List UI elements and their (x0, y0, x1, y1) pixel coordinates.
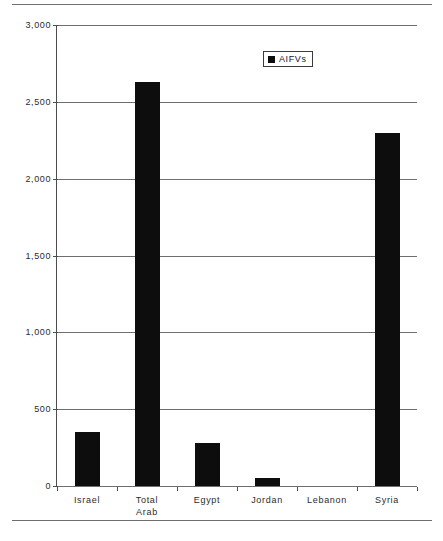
x-tick-mark (237, 487, 238, 491)
legend-swatch-square-icon (268, 56, 275, 63)
bar (135, 82, 160, 486)
x-axis-category-label-line: Arab (109, 506, 185, 518)
y-tick-label: 1,000 (25, 327, 51, 337)
bar (75, 432, 100, 486)
x-axis-category-label-line: Israel (74, 495, 100, 505)
page-rule-bottom (12, 520, 432, 521)
x-axis-category-label-line: Jordan (251, 495, 283, 505)
y-tick-label: 0 (45, 481, 51, 491)
x-tick-mark (177, 487, 178, 491)
x-axis-category-label-line: Syria (375, 495, 399, 505)
x-tick-mark (117, 487, 118, 491)
x-axis-category-label: Syria (349, 494, 425, 506)
x-tick-mark (57, 487, 58, 491)
legend-label: AIFVs (279, 54, 307, 64)
y-tick-label: 3,000 (25, 20, 51, 30)
y-tick-label: 500 (34, 404, 51, 414)
x-axis-category-label-line: Lebanon (307, 495, 347, 505)
x-tick-mark (297, 487, 298, 491)
y-tick-label: 2,000 (25, 174, 51, 184)
bar (375, 133, 400, 486)
chart-page: 05001,0001,5002,0002,5003,000 IsraelTota… (0, 0, 443, 541)
bar (255, 478, 280, 486)
bar (195, 443, 220, 486)
chart-legend: AIFVs (263, 51, 313, 67)
x-axis-category-label-line: Egypt (194, 495, 221, 505)
x-tick-mark (357, 487, 358, 491)
page-rule-top (12, 4, 432, 5)
x-tick-mark (417, 487, 418, 491)
y-tick-label: 1,500 (25, 251, 51, 261)
y-tick-label: 2,500 (25, 97, 51, 107)
x-axis-category-label-line: Total (136, 495, 159, 505)
bar-series-aifvs (57, 25, 417, 486)
